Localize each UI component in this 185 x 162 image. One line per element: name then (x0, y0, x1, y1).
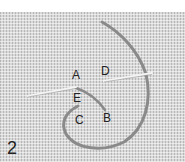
thread-loop (64, 22, 149, 148)
label-b: B (103, 112, 111, 124)
label-a: A (72, 69, 80, 81)
label-e: E (73, 92, 81, 104)
label-d: D (101, 65, 110, 77)
needle-right (104, 73, 152, 81)
label-c: C (75, 114, 84, 126)
needle-left (28, 87, 76, 96)
stitch-illustration (0, 0, 185, 162)
step-number: 2 (7, 139, 17, 157)
